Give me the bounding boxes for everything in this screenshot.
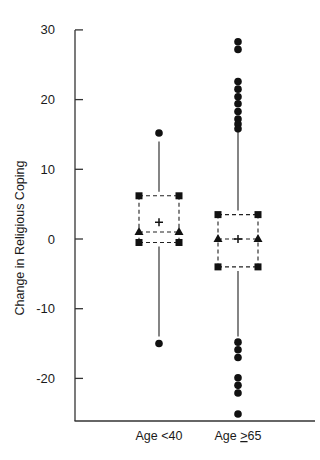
outlier-dot bbox=[234, 125, 242, 133]
quartile-square-marker bbox=[215, 211, 222, 218]
quartile-square-marker bbox=[176, 192, 183, 199]
outlier-dot bbox=[234, 93, 242, 101]
boxes bbox=[135, 38, 263, 418]
outlier-dot bbox=[234, 374, 242, 382]
outlier-dot bbox=[234, 78, 242, 86]
outlier-dot bbox=[234, 338, 242, 346]
y-tick-label: 30 bbox=[41, 22, 55, 37]
outlier-dot bbox=[234, 382, 242, 390]
axes: 3020100-10-20 Change in Religious Coping bbox=[13, 22, 315, 421]
outlier-dot bbox=[155, 129, 163, 137]
outlier-dot bbox=[234, 85, 242, 93]
outlier-dot bbox=[234, 354, 242, 362]
y-tick-label: -10 bbox=[36, 301, 55, 316]
category-label-age-under-40: Age <40 bbox=[136, 429, 183, 443]
median-triangle-marker bbox=[175, 227, 184, 235]
y-ticks: 3020100-10-20 bbox=[36, 22, 83, 386]
box-plot-chart: 3020100-10-20 Change in Religious Coping… bbox=[0, 0, 320, 460]
box-group-age-65-plus bbox=[214, 38, 263, 418]
outlier-dot bbox=[155, 340, 163, 348]
outlier-dot bbox=[234, 346, 242, 354]
outlier-dot bbox=[234, 38, 242, 46]
quartile-square-marker bbox=[255, 263, 262, 270]
outlier-dot bbox=[234, 108, 242, 116]
median-triangle-marker bbox=[135, 227, 144, 235]
median-triangle-marker bbox=[254, 234, 263, 242]
outlier-dot bbox=[234, 389, 242, 397]
y-tick-label: 20 bbox=[41, 92, 55, 107]
category-label-age-65-plus: Age >65 bbox=[215, 429, 262, 443]
y-tick-label: -20 bbox=[36, 371, 55, 386]
quartile-square-marker bbox=[176, 239, 183, 246]
outlier-dot bbox=[234, 410, 242, 418]
y-tick-label: 10 bbox=[41, 162, 55, 177]
quartile-square-marker bbox=[136, 239, 143, 246]
quartile-square-marker bbox=[136, 192, 143, 199]
quartile-square-marker bbox=[255, 211, 262, 218]
outlier-dot bbox=[234, 46, 242, 54]
y-axis-title: Change in Religious Coping bbox=[13, 160, 27, 315]
category-labels: Age <40 Age >65 bbox=[136, 429, 262, 443]
quartile-square-marker bbox=[215, 263, 222, 270]
box-group-age-under-40 bbox=[135, 129, 184, 347]
y-tick-label: 0 bbox=[48, 232, 55, 247]
median-triangle-marker bbox=[214, 234, 223, 242]
outlier-dot bbox=[234, 100, 242, 108]
underlined-geq-symbol: > bbox=[240, 429, 247, 443]
